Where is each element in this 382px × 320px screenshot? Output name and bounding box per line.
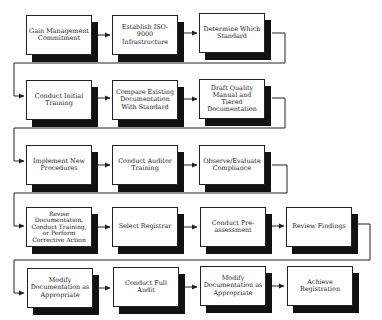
step-box: Conduct Initial Training — [26, 80, 92, 120]
step-observe-evaluate-compliance: Observe/Evaluate Compliance — [199, 145, 265, 185]
step-box: Gain Management Commitment — [26, 15, 92, 55]
step-conduct-initial-training: Conduct Initial Training — [26, 80, 92, 120]
step-box: Draft Quality Manual and Tiered Document… — [199, 79, 265, 119]
step-label: Observe/Evaluate Compliance — [200, 158, 264, 172]
step-label: Implement New Procedures — [27, 158, 91, 172]
step-modify-documentation-1: Modify Documentation as Appropriate — [27, 268, 93, 308]
step-box: Review Findings — [286, 207, 352, 247]
step-box: Conduct Auditor Training — [112, 145, 178, 185]
step-conduct-full-audit: Conduct Full Audit — [113, 267, 179, 307]
step-revise-documentation-or-corrective-action: Revise Documentation, Conduct Training, … — [26, 207, 92, 247]
step-implement-new-procedures: Implement New Procedures — [26, 145, 92, 185]
step-box: Achieve Registration — [287, 266, 353, 306]
step-establish-iso-9000-infrastructure: Establish ISO-9000 Infrastructure — [112, 15, 178, 55]
step-box: Select Registrar — [112, 207, 178, 247]
step-label: Review Findings — [290, 223, 348, 230]
step-select-registrar: Select Registrar — [112, 207, 178, 247]
step-box: Compare Existing Documentation With Stan… — [112, 80, 178, 120]
flowchart-canvas: Gain Management Commitment Establish ISO… — [0, 0, 382, 320]
step-compare-existing-documentation: Compare Existing Documentation With Stan… — [112, 80, 178, 120]
step-box: Modify Documentation as Appropriate — [27, 268, 93, 308]
step-label: Modify Documentation as Appropriate — [201, 275, 265, 297]
step-label: Establish ISO-9000 Infrastructure — [113, 24, 177, 46]
step-conduct-auditor-training: Conduct Auditor Training — [112, 145, 178, 185]
step-determine-which-standard: Determine Which Standard — [199, 13, 265, 53]
step-label: Gain Management Commitment — [27, 28, 91, 42]
step-gain-management-commitment: Gain Management Commitment — [26, 15, 92, 55]
step-draft-quality-manual: Draft Quality Manual and Tiered Document… — [199, 79, 265, 119]
step-label: Conduct Pre-assessment — [201, 220, 265, 234]
step-label: Achieve Registration — [288, 279, 352, 293]
step-label: Determine Which Standard — [200, 26, 264, 40]
step-label: Compare Existing Documentation With Stan… — [113, 89, 177, 111]
step-label: Select Registrar — [117, 223, 174, 230]
step-label: Conduct Auditor Training — [113, 158, 177, 172]
step-achieve-registration: Achieve Registration — [287, 266, 353, 306]
step-box: Establish ISO-9000 Infrastructure — [112, 15, 178, 55]
step-box: Determine Which Standard — [199, 13, 265, 53]
step-label: Conduct Initial Training — [27, 93, 91, 107]
step-box: Conduct Pre-assessment — [200, 207, 266, 247]
step-box: Implement New Procedures — [26, 145, 92, 185]
step-modify-documentation-2: Modify Documentation as Appropriate — [200, 266, 266, 306]
step-conduct-pre-assessment: Conduct Pre-assessment — [200, 207, 266, 247]
step-review-findings: Review Findings — [286, 207, 352, 247]
step-box: Modify Documentation as Appropriate — [200, 266, 266, 306]
step-box: Conduct Full Audit — [113, 267, 179, 307]
step-label: Conduct Full Audit — [114, 280, 178, 294]
step-label: Modify Documentation as Appropriate — [28, 277, 92, 299]
step-box: Observe/Evaluate Compliance — [199, 145, 265, 185]
step-box: Revise Documentation, Conduct Training, … — [26, 207, 92, 247]
step-label: Draft Quality Manual and Tiered Document… — [200, 85, 264, 114]
step-label: Revise Documentation, Conduct Training, … — [27, 211, 91, 244]
